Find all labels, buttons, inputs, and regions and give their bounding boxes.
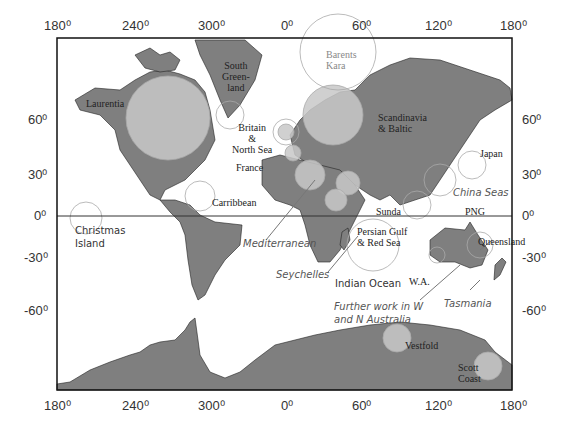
label-japan: Japan bbox=[480, 148, 503, 159]
label-carribbean: Carribbean bbox=[212, 197, 256, 208]
label-france: France bbox=[236, 162, 263, 173]
top-tick: 120⁰ bbox=[425, 18, 452, 33]
bottom-tick: 180⁰ bbox=[44, 398, 71, 413]
label-vestfold: Vestfold bbox=[405, 340, 438, 351]
left-tick: -60⁰ bbox=[24, 303, 48, 318]
world-map-diagram: 180⁰ 240⁰ 300⁰ 0⁰ 60⁰ 120⁰ 180⁰ 180⁰ 240… bbox=[0, 0, 572, 434]
label-christmas-island: ChristmasIsland bbox=[75, 224, 125, 250]
label-china-seas: China Seas bbox=[453, 186, 509, 199]
left-tick: 30⁰ bbox=[28, 167, 47, 182]
label-sunda: Sunda bbox=[376, 206, 401, 217]
label-south-greenland: SouthGreen-land bbox=[222, 60, 250, 93]
top-tick: 180⁰ bbox=[44, 18, 71, 33]
right-tick: 60⁰ bbox=[522, 112, 541, 127]
label-britain-north-sea: Britain&North Sea bbox=[232, 122, 272, 155]
top-tick: 0⁰ bbox=[281, 18, 293, 33]
label-scott-coast: ScottCoast bbox=[458, 362, 481, 384]
top-tick: 240⁰ bbox=[122, 18, 149, 33]
right-tick: -30⁰ bbox=[522, 250, 546, 265]
right-tick: -60⁰ bbox=[522, 303, 546, 318]
bottom-tick: 60⁰ bbox=[352, 398, 371, 413]
bottom-tick: 240⁰ bbox=[122, 398, 149, 413]
right-tick: 30⁰ bbox=[522, 167, 541, 182]
label-scandinavia-baltic: Scandinavia& Baltic bbox=[378, 112, 427, 134]
left-tick: 60⁰ bbox=[28, 112, 47, 127]
bottom-tick: 120⁰ bbox=[425, 398, 452, 413]
label-indian-ocean: Indian Ocean bbox=[335, 277, 401, 290]
label-barents-kara: BarentsKara bbox=[326, 49, 357, 71]
top-tick: 60⁰ bbox=[352, 18, 371, 33]
label-queensland: Queensland bbox=[478, 236, 525, 247]
land-masses bbox=[57, 40, 512, 390]
map-canvas bbox=[0, 0, 572, 434]
label-seychelles: Seychelles bbox=[276, 268, 329, 281]
label-tasmania: Tasmania bbox=[444, 297, 492, 310]
left-tick: -30⁰ bbox=[24, 250, 48, 265]
top-tick: 300⁰ bbox=[198, 18, 225, 33]
top-tick: 180⁰ bbox=[500, 18, 527, 33]
label-persian-gulf-red-sea: Persian Gulf& Red Sea bbox=[357, 226, 407, 248]
bottom-tick: 300⁰ bbox=[198, 398, 225, 413]
label-laurentia: Laurentia bbox=[86, 98, 124, 109]
bottom-tick: 180⁰ bbox=[500, 398, 527, 413]
label-wa: W.A. bbox=[409, 276, 430, 287]
left-tick: 0⁰ bbox=[34, 208, 46, 223]
bottom-tick: 0⁰ bbox=[281, 398, 293, 413]
label-png: PNG bbox=[465, 206, 485, 217]
right-tick: 0⁰ bbox=[522, 208, 534, 223]
label-mediterranean: Mediterranean bbox=[243, 237, 316, 250]
label-further-work: Further work in Wand N Australia bbox=[334, 300, 423, 326]
